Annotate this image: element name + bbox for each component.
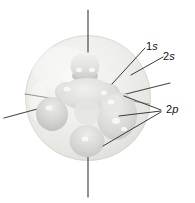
highlight-dot — [46, 106, 53, 111]
figure-atomic-orbitals-composite: 1s 2s 2p — [0, 0, 195, 203]
label-2s: 2s — [163, 50, 175, 62]
label-2p: 2p — [166, 103, 179, 115]
highlight-dot — [121, 127, 127, 131]
highlight-dot — [64, 87, 71, 92]
label-2s-letter: s — [169, 50, 175, 62]
label-1s-letter: s — [152, 40, 158, 52]
highlight-dot — [82, 137, 89, 142]
highlight-dot — [76, 68, 82, 72]
label-1s: 1s — [146, 40, 158, 52]
lobe-2p-top — [71, 53, 100, 80]
core-center-blend — [74, 99, 100, 125]
label-2p-letter: p — [172, 103, 178, 115]
highlight-dot — [101, 91, 107, 95]
highlight-dot — [89, 68, 95, 72]
highlight-dot — [108, 100, 115, 105]
orbital-diagram — [0, 0, 195, 203]
highlight-dot — [112, 118, 120, 124]
